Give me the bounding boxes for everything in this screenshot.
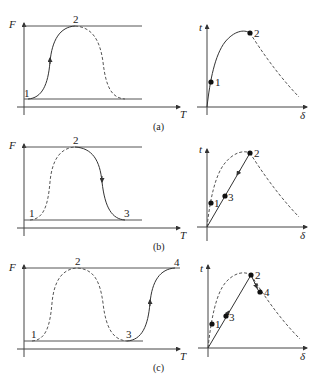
f-axis-label: F xyxy=(8,139,16,151)
t-axis-label: t xyxy=(199,21,203,33)
solid-curve xyxy=(28,26,75,99)
dashed-curve xyxy=(30,147,75,220)
panel-b-right-plot: t δ 1 3 2 xyxy=(197,143,307,241)
dashed-curve xyxy=(32,268,127,341)
caption-a: (a) xyxy=(153,121,164,133)
caption-b: (b) xyxy=(153,241,165,253)
point-1 xyxy=(208,79,213,84)
t-axis-label: T xyxy=(180,350,187,362)
point-label-1: 1 xyxy=(215,318,221,330)
point-1 xyxy=(208,200,213,205)
point-label-2: 2 xyxy=(254,27,260,39)
point-3 xyxy=(222,193,227,198)
f-axis-label: F xyxy=(8,18,16,30)
delta-axis-label: δ xyxy=(300,350,306,362)
point-label-2: 2 xyxy=(254,147,260,159)
t-axis-label: t xyxy=(199,143,203,155)
caption-c: (c) xyxy=(153,362,164,374)
point-label-1: 1 xyxy=(215,76,221,88)
point-label-3: 3 xyxy=(228,191,234,203)
point-2 xyxy=(247,30,252,35)
point-label-1: 1 xyxy=(29,207,35,219)
figure-canvas: F T 1 2 t δ 1 2 (a) F xyxy=(0,0,321,387)
point-label-3: 3 xyxy=(124,207,130,219)
panel-b-left-plot: F T 1 2 3 xyxy=(8,134,187,241)
point-label-2: 2 xyxy=(73,13,79,25)
panel-a-right-plot: t δ 1 2 xyxy=(197,21,307,121)
point-label-2: 2 xyxy=(75,255,81,267)
delta-axis-label: δ xyxy=(300,109,306,121)
panel-a-left-plot: F T 1 2 xyxy=(8,13,187,120)
delta-axis-label: δ xyxy=(300,229,306,241)
point-label-3: 3 xyxy=(229,311,235,323)
point-2 xyxy=(247,150,252,155)
point-3 xyxy=(223,313,228,318)
panel-c-right-plot: t δ 1 3 2 4 xyxy=(198,262,307,362)
point-label-1: 1 xyxy=(214,197,220,209)
f-axis-label: F xyxy=(8,261,16,273)
dashed-softening xyxy=(250,153,299,217)
point-label-1: 1 xyxy=(31,328,37,340)
point-label-2: 2 xyxy=(73,134,79,146)
point-1 xyxy=(209,321,214,326)
panel-c: F T 1 2 3 4 t δ 1 3 2 4 (c) xyxy=(8,255,307,374)
point-label-4: 4 xyxy=(174,256,180,268)
direction-arrow-icon xyxy=(237,170,240,175)
dashed-softening xyxy=(251,275,300,339)
dashed-curve xyxy=(75,26,125,99)
t-axis-label: t xyxy=(200,262,204,274)
t-axis-label: T xyxy=(180,229,187,241)
point-label-3: 3 xyxy=(126,328,132,340)
panel-c-left-plot: F T 1 2 3 4 xyxy=(8,255,187,362)
point-4 xyxy=(257,289,262,294)
dashed-curve xyxy=(250,33,299,97)
t-axis-label: T xyxy=(180,108,187,120)
solid-curve xyxy=(75,147,125,220)
point-2 xyxy=(248,272,253,277)
solid-curve xyxy=(127,268,175,341)
point-label-2: 2 xyxy=(255,269,261,281)
panel-b: F T 1 2 3 t δ 1 3 2 (b) xyxy=(8,134,307,253)
point-label-1: 1 xyxy=(24,87,30,99)
point-label-4: 4 xyxy=(264,286,270,298)
panel-a: F T 1 2 t δ 1 2 (a) xyxy=(8,13,307,133)
solid-curve xyxy=(207,31,250,107)
